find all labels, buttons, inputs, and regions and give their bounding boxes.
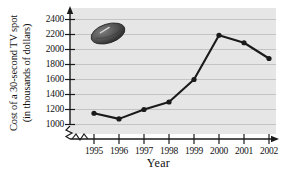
y-axis-title-line2: (in thousands of dollars): [20, 3, 33, 143]
y-axis-title: Cost of a 30-second TV spot (in thousand…: [7, 3, 41, 143]
x-tick-labels: 1995 1996 1997 1998 1999 2000 2001 2002: [0, 0, 289, 182]
x-axis-title: Year: [0, 156, 289, 171]
chart-container: 2400 2200 2000 1800 1600 1400 1200 1000 …: [0, 0, 289, 182]
y-axis-title-line1: Cost of a 30-second TV spot: [7, 3, 20, 143]
x-axis-title-label: Year: [147, 156, 170, 170]
